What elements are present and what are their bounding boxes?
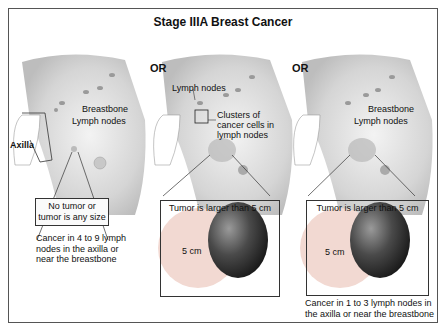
label-breastbone-1: Breastbone [82,104,128,114]
caption-3: Cancer in 1 to 3 lymph nodes in the axil… [305,298,437,319]
size-label-2: 5 cm [182,246,202,256]
size-label-3: 5 cm [325,247,345,257]
label-axilla: Axilla [10,140,34,150]
callout-text-2: Tumor is larger than 5 cm [169,203,271,213]
label-breastbone-3: Breastbone [368,104,414,114]
or-separator-2: OR [292,62,309,74]
label-clusters: Clusters of cancer cells in lymph nodes [217,110,285,140]
label-lymph-nodes-2: Lymph nodes [172,83,226,93]
caption-1: Cancer in 4 to 9 lymph nodes in the axil… [36,233,131,265]
callout-text-3: Tumor is larger than 5 cm [316,203,418,213]
callout-box-1: No tumor or tumor is any size [35,198,109,226]
label-lymph-nodes-3: Lymph nodes [354,116,408,126]
or-separator-1: OR [150,62,167,74]
callout-box-2: Tumor is larger than 5 cm [160,200,280,297]
label-lymph-nodes-1: Lymph nodes [72,116,126,126]
torso-illustration-3 [294,54,433,215]
